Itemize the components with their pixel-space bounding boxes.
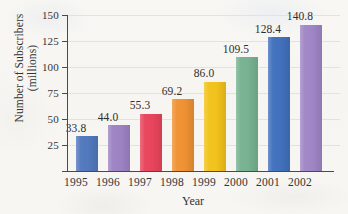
bar-1998	[172, 99, 194, 171]
bar-1997	[140, 114, 162, 172]
x-axis-line	[62, 171, 334, 172]
bar-series	[67, 15, 329, 171]
y-tickmark-150	[62, 15, 68, 16]
y-tickmark-125	[62, 41, 68, 42]
y-tickmark-25	[62, 145, 68, 146]
y-tickmark-50	[62, 119, 68, 120]
y-tickmark-100	[62, 67, 68, 68]
bar-1999	[204, 82, 226, 171]
y-axis-title-line-2: (millions)	[26, 0, 39, 143]
bar-2001	[268, 37, 290, 171]
bar-chart-figure: 150 125 100 75 50 25 Number of Subscribe…	[0, 0, 348, 214]
x-tick-label-2002: 2002	[277, 176, 323, 189]
x-axis-title: Year	[0, 194, 348, 208]
bar-1996	[108, 125, 130, 171]
y-axis-title: Number of Subscribers (millions)	[13, 0, 53, 143]
bar-2000	[236, 57, 258, 171]
y-axis-title-line-1: Number of Subscribers	[13, 0, 26, 143]
bar-1995	[76, 136, 98, 171]
bar-2002	[300, 25, 322, 171]
y-tickmark-75	[62, 93, 68, 94]
x-axis-title-text: Year	[182, 194, 204, 208]
